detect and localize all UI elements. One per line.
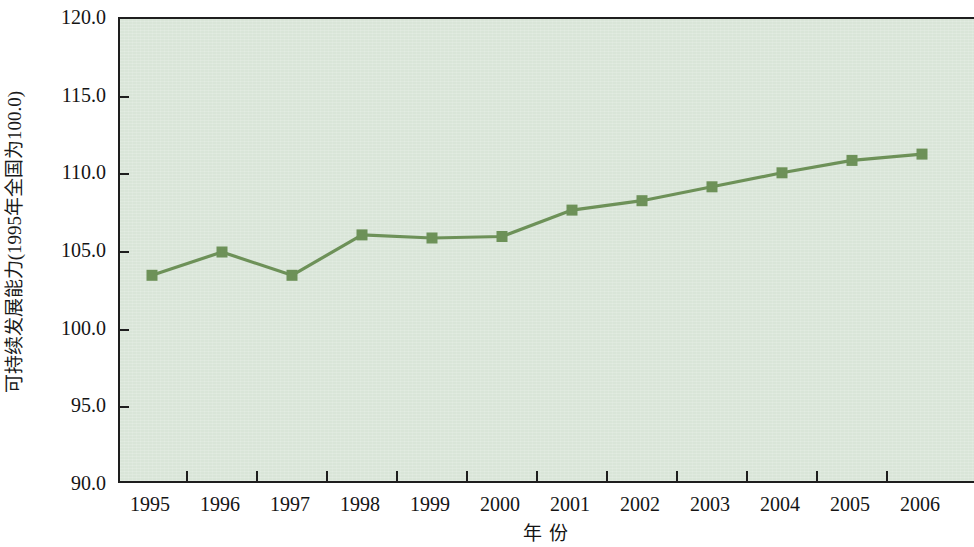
x-tick-label: 1997 (250, 492, 330, 516)
x-tick-label: 1995 (110, 492, 190, 516)
x-tick-mark (816, 471, 818, 481)
x-axis-tick-labels: 1995199619971998199920002001200220032004… (118, 492, 974, 520)
x-tick-label: 2002 (600, 492, 680, 516)
y-tick-mark (120, 329, 129, 331)
x-axis-title: 年 份 (118, 518, 974, 545)
y-tick-label: 105.0 (32, 240, 106, 260)
data-point-marker: 1997: 103.5 (287, 270, 298, 281)
y-tick-label: 115.0 (32, 85, 106, 105)
data-point-marker: 2002: 108.3 (637, 195, 648, 206)
data-point-marker: 2006: 111.3 (917, 149, 928, 160)
x-tick-mark (326, 471, 328, 481)
x-tick-mark (256, 471, 258, 481)
x-tick-mark (606, 471, 608, 481)
y-axis-tick-labels: 90.095.0100.0105.0110.0115.0120.0 (28, 0, 106, 547)
sustainable-development-line-chart: 可持续发展能力(1995年全国为100.0) 90.095.0100.0105.… (0, 0, 974, 547)
data-point-marker: 2001: 107.7 (567, 205, 578, 216)
data-point-marker: 2004: 110.1 (777, 167, 788, 178)
data-series-line: 1995: 103.51996: 1051997: 103.51998: 106… (120, 19, 974, 485)
x-tick-mark (676, 471, 678, 481)
y-tick-label: 95.0 (32, 395, 106, 415)
y-tick-mark (120, 251, 129, 253)
y-tick-label: 90.0 (32, 473, 106, 493)
x-tick-label: 2000 (460, 492, 540, 516)
y-axis-title: 可持续发展能力(1995年全国为100.0) (2, 0, 28, 492)
x-tick-label: 1996 (180, 492, 260, 516)
x-tick-label: 1998 (320, 492, 400, 516)
x-tick-mark (396, 471, 398, 481)
data-point-marker: 1996: 105 (217, 247, 228, 258)
x-tick-label: 2001 (530, 492, 610, 516)
y-tick-mark (120, 173, 129, 175)
y-tick-label: 100.0 (32, 318, 106, 338)
x-tick-label: 2005 (810, 492, 890, 516)
data-point-marker: 1998: 106.1 (357, 229, 368, 240)
y-tick-mark (120, 406, 129, 408)
x-tick-mark (746, 471, 748, 481)
x-tick-mark (466, 471, 468, 481)
plot-area: 1995: 103.51996: 1051997: 103.51998: 106… (118, 17, 974, 483)
x-tick-label: 2003 (670, 492, 750, 516)
x-tick-label: 2004 (740, 492, 820, 516)
y-tick-label: 120.0 (32, 7, 106, 27)
data-point-marker: 1999: 105.9 (427, 233, 438, 244)
y-tick-label: 110.0 (32, 162, 106, 182)
x-tick-mark (186, 471, 188, 481)
x-tick-mark (886, 471, 888, 481)
x-tick-label: 1999 (390, 492, 470, 516)
y-tick-mark (120, 96, 129, 98)
x-tick-mark (536, 471, 538, 481)
data-point-marker: 2000: 106 (497, 231, 508, 242)
data-point-marker: 2003: 109.2 (707, 181, 718, 192)
series-line (152, 154, 922, 275)
x-tick-label: 2006 (880, 492, 960, 516)
data-point-marker: 1995: 103.5 (147, 270, 158, 281)
data-point-marker: 2005: 110.9 (847, 155, 858, 166)
